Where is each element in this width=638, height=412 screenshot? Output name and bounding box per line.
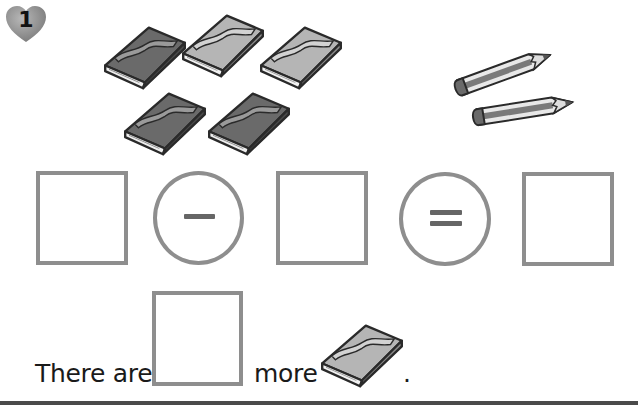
book-5 (204, 86, 294, 158)
pencil-1 (447, 42, 559, 102)
equals-operator (399, 172, 491, 266)
book-icon (204, 86, 294, 158)
book-1 (100, 20, 190, 92)
pencil-icon (467, 90, 579, 131)
book-icon (256, 20, 346, 92)
book-icon (120, 86, 210, 158)
equals-icon-bottom (430, 221, 462, 226)
answer-box[interactable] (152, 291, 243, 386)
book-2 (178, 8, 268, 80)
minus-icon (184, 214, 215, 219)
bottom-divider (0, 401, 638, 405)
exercise-number-badge: 1 (4, 4, 48, 44)
book-4 (120, 86, 210, 158)
operand1-box[interactable] (36, 171, 128, 265)
result-box[interactable] (522, 172, 614, 266)
operand2-box[interactable] (276, 171, 368, 265)
book-3 (256, 20, 346, 92)
sentence-period: . (403, 359, 411, 388)
book-icon (318, 318, 406, 390)
minus-operator (153, 171, 244, 265)
sentence-book (318, 318, 408, 390)
sentence-middle: more (254, 359, 318, 388)
book-icon (178, 8, 268, 80)
pencil-2 (467, 90, 579, 131)
book-icon (100, 20, 190, 92)
sentence-prefix: There are (35, 359, 152, 388)
exercise-number: 1 (4, 7, 48, 32)
pencil-icon (447, 42, 559, 102)
equals-icon-top (430, 210, 462, 215)
